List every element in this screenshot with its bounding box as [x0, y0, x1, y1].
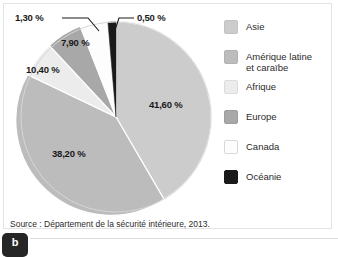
slice-label-afrique: 10,40 %	[26, 64, 59, 75]
legend-item-asie[interactable]: Asie	[224, 20, 334, 50]
slice-label-europe: 7,90 %	[61, 37, 89, 48]
legend-label-oceanie: Océanie	[246, 170, 281, 182]
legend-label-afrique-line1: Afrique	[246, 81, 276, 92]
slice-label-canada: 1,30 %	[15, 12, 43, 23]
corner-badge: b	[2, 233, 28, 257]
legend-swatch-icon-canada	[224, 140, 238, 154]
legend-swatch-icon-amerique-latine	[224, 50, 238, 64]
bottom-divider	[30, 238, 338, 239]
legend-label-oceanie-line1: Océanie	[246, 171, 281, 182]
slice-label-oceanie: 0,50 %	[137, 12, 165, 23]
legend-swatch-icon-oceanie	[224, 170, 238, 184]
legend-label-amerique-latine-line1: Amérique latine	[246, 51, 312, 62]
legend-label-canada: Canada	[246, 140, 279, 152]
legend-label-canada-line1: Canada	[246, 141, 279, 152]
legend-swatch-icon-asie	[224, 20, 238, 34]
legend-label-amerique-latine: Amérique latine et caraïbe	[246, 50, 312, 73]
legend-item-europe[interactable]: Europe	[224, 110, 334, 140]
legend-label-asie-line1: Asie	[246, 21, 264, 32]
slice-label-amerique-latine: 38,20 %	[52, 148, 85, 159]
legend-label-afrique: Afrique	[246, 80, 276, 92]
legend-label-europe: Europe	[246, 110, 277, 122]
legend-item-canada[interactable]: Canada	[224, 140, 334, 170]
legend-label-europe-line1: Europe	[246, 111, 277, 122]
source-note: Source : Département de la sécurité inté…	[10, 219, 210, 229]
legend-label-asie: Asie	[246, 20, 264, 32]
chart-plot-area: 41,60 % 38,20 % 10,40 % 7,90 % 1,30 % 0,…	[4, 4, 216, 218]
slice-label-asie: 41,60 %	[149, 99, 182, 110]
legend-swatch-icon-europe	[224, 110, 238, 124]
legend-item-oceanie[interactable]: Océanie	[224, 170, 334, 200]
legend-item-amerique-latine[interactable]: Amérique latine et caraïbe	[224, 50, 334, 80]
pie-svg	[4, 4, 216, 218]
legend-label-amerique-latine-line2: et caraïbe	[246, 62, 312, 73]
legend-swatch-icon-afrique	[224, 80, 238, 94]
chart-legend: Asie Amérique latine et caraïbe Afrique …	[224, 20, 334, 200]
legend-item-afrique[interactable]: Afrique	[224, 80, 334, 110]
